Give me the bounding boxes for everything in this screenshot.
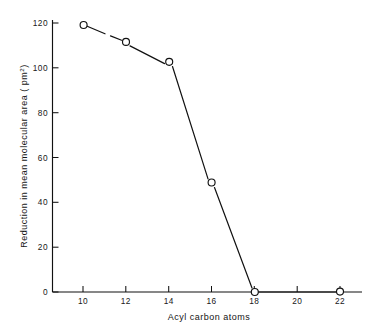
line-chart-svg: 0 20 40 60 80 100 120 Reduction in mean …	[0, 0, 370, 331]
data-point-22	[337, 288, 344, 295]
y-axis-title-group: Reduction in mean molecular area ( pm2)	[18, 64, 29, 248]
y-tick-label-0: 0	[43, 287, 48, 297]
x-tick-label-10: 10	[78, 296, 88, 306]
y-tick-label-60: 60	[38, 153, 48, 163]
y-tick-label-100: 100	[33, 63, 48, 73]
x-tick-label-20: 20	[292, 296, 302, 306]
chart-figure: 0 20 40 60 80 100 120 Reduction in mean …	[0, 0, 370, 331]
data-point-12	[123, 38, 130, 45]
y-tick-label-20: 20	[38, 242, 48, 252]
data-point-14	[166, 58, 173, 65]
y-tick-label-120: 120	[33, 18, 48, 28]
y-tick-label-80: 80	[38, 108, 48, 118]
x-tick-label-18: 18	[249, 296, 259, 306]
x-tick-label-16: 16	[206, 296, 216, 306]
data-point-16	[208, 179, 215, 186]
x-tick-label-14: 14	[164, 296, 174, 306]
y-axis-title-tail: )	[19, 64, 29, 68]
y-tick-label-40: 40	[38, 197, 48, 207]
chart-background	[0, 0, 370, 331]
x-tick-label-22: 22	[335, 296, 345, 306]
y-axis-title: Reduction in mean molecular area ( pm2)	[18, 64, 29, 248]
data-point-18	[251, 289, 258, 296]
x-axis-title: Acyl carbon atoms	[168, 312, 251, 322]
x-tick-label-12: 12	[121, 296, 131, 306]
data-point-10	[80, 22, 87, 29]
y-axis-title-main: Reduction in mean molecular area ( pm	[19, 72, 29, 248]
